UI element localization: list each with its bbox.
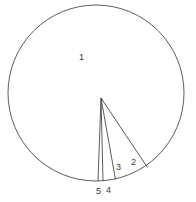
- region-label-1: 1: [79, 53, 84, 62]
- region-label-4: 4: [106, 186, 111, 195]
- chord-d: [101, 98, 148, 168]
- outer-circle: [8, 5, 184, 181]
- region-label-2: 2: [131, 158, 136, 167]
- region-label-3: 3: [116, 163, 121, 172]
- chord-b: [101, 98, 103, 181]
- region-label-5: 5: [96, 187, 101, 196]
- chord-c: [101, 98, 116, 180]
- figure-canvas: 1 2 3 4 5: [0, 0, 196, 202]
- chord-a: [98, 98, 101, 181]
- circle-sector-diagram: [0, 0, 196, 202]
